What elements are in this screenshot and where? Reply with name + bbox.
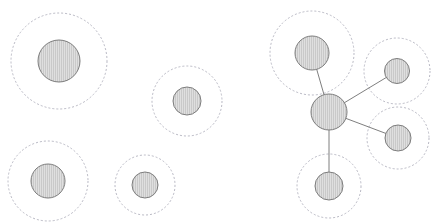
figure-root — [0, 0, 442, 223]
graph-node[interactable] — [295, 36, 329, 70]
graph-node[interactable] — [31, 164, 65, 198]
graph-node[interactable] — [132, 172, 158, 198]
graph-canvas — [0, 0, 442, 223]
graph-node[interactable] — [38, 40, 80, 82]
graph-node[interactable] — [173, 87, 201, 115]
graph-node[interactable] — [385, 59, 410, 84]
graph-node[interactable] — [311, 94, 347, 130]
graph-node[interactable] — [385, 125, 411, 151]
graph-node[interactable] — [315, 172, 343, 200]
halo-layer — [8, 11, 430, 221]
